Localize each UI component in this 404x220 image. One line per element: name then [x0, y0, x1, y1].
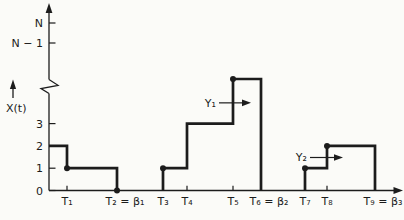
data-point-4	[230, 76, 236, 82]
x-tick-label-1: T₁	[60, 195, 72, 208]
data-point-3	[160, 165, 166, 171]
plot-svg: X(t) T₁T₂ = β₁T₃T₄T₅T₆ = β₂T₇T₈T₉ = β₃01…	[0, 0, 404, 220]
data-point-5	[302, 165, 308, 171]
generated-chart-content: T₁T₂ = β₁T₃T₄T₅T₆ = β₂T₇T₈T₉ = β₃0123N −…	[12, 17, 403, 208]
y-tick-label-4: 3	[36, 118, 43, 131]
x-tick-label-9: T₉ = β₃	[363, 195, 403, 208]
data-point-2	[114, 188, 120, 194]
step-trajectory-1	[49, 146, 117, 191]
annotation-label-2: Y₂	[295, 151, 307, 164]
y-axis-break-icon	[41, 80, 58, 94]
x-tick-label-4: T₄	[180, 195, 193, 208]
x-tick-label-2: T₂ = β₁	[105, 195, 145, 208]
y-axis-arrowhead-icon	[46, 3, 53, 13]
annotation-label-1: Y₁	[204, 97, 216, 110]
annotation-arrowhead-icon-1	[242, 100, 251, 107]
y-axis-title-arrowhead-icon	[10, 80, 16, 90]
data-point-1	[64, 165, 70, 171]
x-tick-label-8: T₈	[320, 195, 333, 208]
y-axis-title: X(t)	[6, 102, 26, 115]
y-tick-label-6: N	[35, 17, 43, 30]
x-tick-label-3: T₃	[156, 195, 168, 208]
step-trajectory-2	[163, 79, 261, 191]
x-tick-label-5: T₅	[226, 195, 238, 208]
y-tick-label-2: 1	[36, 162, 43, 175]
x-tick-label-7: T₇	[298, 195, 310, 208]
data-point-6	[324, 143, 330, 149]
step-trajectory-3	[305, 146, 375, 191]
x-axis-arrowhead-icon	[394, 187, 404, 194]
y-tick-label-3: 2	[36, 140, 43, 153]
y-tick-label-1: 0	[36, 185, 43, 198]
y-tick-label-5: N − 1	[12, 37, 43, 50]
step-function-figure: X(t) T₁T₂ = β₁T₃T₄T₅T₆ = β₂T₇T₈T₉ = β₃01…	[0, 0, 404, 220]
x-tick-label-6: T₆ = β₂	[249, 195, 289, 208]
annotation-arrowhead-icon-2	[334, 154, 343, 161]
